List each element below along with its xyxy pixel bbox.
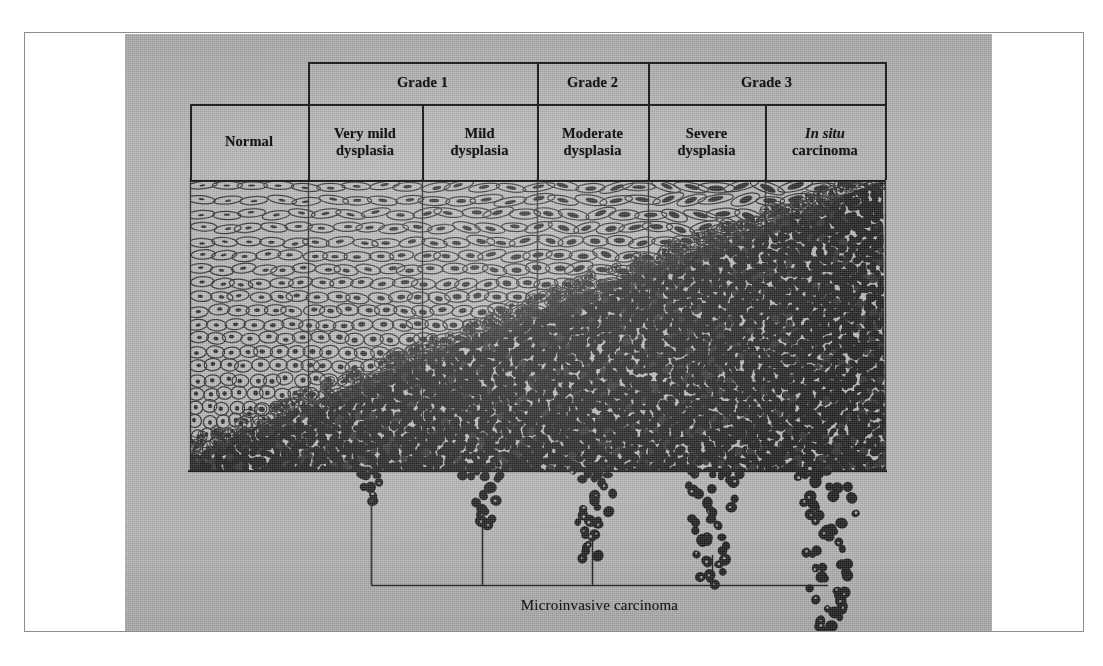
column-divider-right [885,104,887,180]
column-label-normal: Normal [190,104,308,180]
column-label-line1-very-mild: Very mild [334,125,396,142]
column-label-moderate: Moderatedysplasia [537,104,648,180]
grade-cell-right-border-2 [885,62,887,104]
grade-label-2: Grade 2 [537,62,648,104]
column-label-in-situ: In situcarcinoma [765,104,885,180]
microinvasive-carcinoma-label: Microinvasive carcinoma [510,597,690,614]
column-label-line2-moderate: dysplasia [562,142,623,159]
column-label-very-mild: Very milddysplasia [308,104,422,180]
column-label-line1-severe: Severe [677,125,735,142]
column-label-line2-in-situ: carcinoma [792,142,858,159]
column-label-line1-mild: Mild [450,125,508,142]
grade-label-3: Grade 3 [648,62,885,104]
column-label-line2-very-mild: dysplasia [334,142,396,159]
column-label-line2-mild: dysplasia [450,142,508,159]
column-label-line1-normal: Normal [225,133,273,150]
column-label-line1-moderate: Moderate [562,125,623,142]
page: Grade 1Grade 2Grade 3NormalVery milddysp… [0,0,1103,666]
column-label-line1-in-situ: In situ [792,125,858,142]
column-label-line2-severe: dysplasia [677,142,735,159]
column-label-severe: Severedysplasia [648,104,765,180]
grade-label-1: Grade 1 [308,62,537,104]
column-label-mild: Milddysplasia [422,104,537,180]
header-bottom-rule [190,180,885,182]
